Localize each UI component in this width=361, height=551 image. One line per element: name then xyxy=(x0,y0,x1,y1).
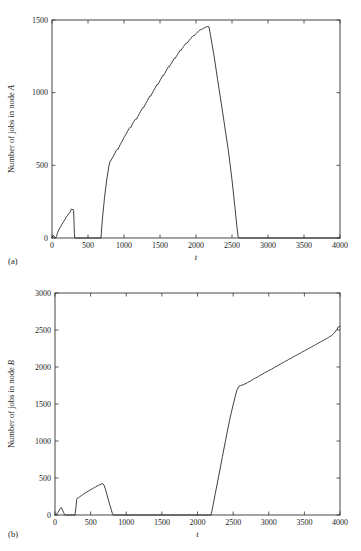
y-axis-title: Number of jobs in node A xyxy=(6,84,16,173)
panel-a-caption: (a) xyxy=(8,256,18,266)
x-tick-label: 4000 xyxy=(332,518,348,527)
x-tick-label: 2500 xyxy=(225,518,241,527)
y-tick-label: 500 xyxy=(39,474,51,483)
y-axis-title-prefix: Number of jobs in node xyxy=(6,90,16,173)
x-tick-label: 0 xyxy=(50,241,54,250)
x-axis-title: t xyxy=(195,252,198,262)
x-tick-label: 2000 xyxy=(190,518,206,527)
x-axis-title: t xyxy=(196,529,199,539)
chart-b-svg: 0500100015002000250030003500400005001000… xyxy=(0,275,361,551)
y-axis-title-prefix: Number of jobs in node xyxy=(6,365,16,448)
x-tick-label: 1000 xyxy=(118,518,134,527)
x-tick-label: 3500 xyxy=(296,518,312,527)
y-tick-label: 1000 xyxy=(32,88,48,97)
y-axis-title: Number of jobs in node B xyxy=(6,360,16,448)
y-tick-label: 2000 xyxy=(35,363,51,372)
y-tick-label: 1500 xyxy=(35,400,51,409)
x-tick-label: 500 xyxy=(82,241,94,250)
panel-b-caption: (b) xyxy=(8,529,18,539)
x-tick-label: 500 xyxy=(85,518,97,527)
x-tick-label: 2000 xyxy=(188,241,204,250)
x-tick-label: 1500 xyxy=(152,241,168,250)
x-tick-label: 2500 xyxy=(224,241,240,250)
chart-panel-a: 0500100015002000250030003500400005001000… xyxy=(0,0,361,275)
x-tick-label: 4000 xyxy=(332,241,348,250)
y-tick-label: 0 xyxy=(44,234,48,243)
y-tick-label: 500 xyxy=(36,161,48,170)
plot-axes-box xyxy=(55,293,340,515)
x-tick-label: 1500 xyxy=(154,518,170,527)
y-tick-label: 3000 xyxy=(35,289,51,298)
y-axis-title-node-letter: A xyxy=(6,84,16,91)
y-tick-label: 1000 xyxy=(35,437,51,446)
x-tick-label: 1000 xyxy=(116,241,132,250)
y-axis-title-node-letter: B xyxy=(6,360,16,365)
y-tick-label: 1500 xyxy=(32,16,48,25)
y-tick-label: 0 xyxy=(47,511,51,520)
x-tick-label: 0 xyxy=(53,518,57,527)
x-tick-label: 3000 xyxy=(261,518,277,527)
x-tick-label: 3000 xyxy=(260,241,276,250)
chart-a-svg: 0500100015002000250030003500400005001000… xyxy=(0,0,361,275)
series-line-jobs-in-node-A xyxy=(52,27,340,238)
plot-axes-box xyxy=(52,20,340,238)
series-line-jobs-in-node-B xyxy=(55,326,340,515)
x-tick-label: 3500 xyxy=(296,241,312,250)
y-tick-label: 2500 xyxy=(35,326,51,335)
chart-panel-b: 0500100015002000250030003500400005001000… xyxy=(0,275,361,551)
